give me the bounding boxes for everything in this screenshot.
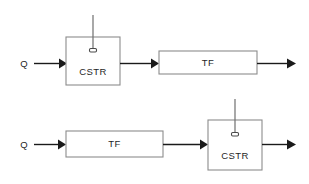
bottom-row-inlet-arrow — [34, 140, 66, 150]
bottom-row-group: Q TF CSTR — [20, 99, 296, 170]
bottom-row-tf-label: TF — [108, 138, 120, 149]
bottom-row-inlet-label: Q — [20, 139, 27, 150]
top-row-group: Q CSTR TF — [20, 15, 296, 85]
bottom-row-outlet-arrow — [262, 140, 296, 150]
top-row-outlet-arrow — [257, 59, 296, 69]
top-row-inlet-label: Q — [20, 58, 27, 69]
bottom-row-mid-arrow — [163, 140, 208, 150]
top-row-cstr-label: CSTR — [79, 66, 106, 77]
top-row-inlet-arrow — [34, 59, 67, 69]
top-row-tf-label: TF — [202, 57, 214, 68]
block-flow-diagram: Q CSTR TF — [0, 0, 309, 184]
top-row-mid-arrow — [120, 59, 159, 69]
bottom-row-cstr-label: CSTR — [221, 150, 248, 161]
